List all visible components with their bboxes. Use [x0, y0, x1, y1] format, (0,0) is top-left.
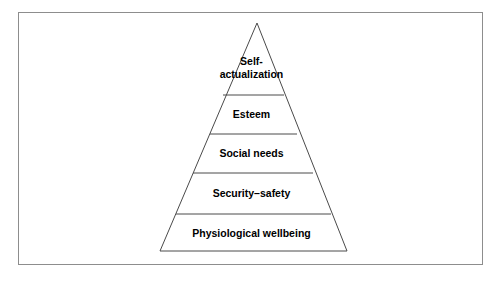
pyramid-svg-canvas: Self- actualization Esteem Social needs … [19, 13, 484, 266]
tier-label-security-safety: Security–safety [213, 187, 291, 199]
figure-frame: Self- actualization Esteem Social needs … [18, 12, 483, 265]
tier-label-social-needs: Social needs [219, 147, 283, 159]
tier-label-physiological-wellbeing: Physiological wellbeing [192, 227, 310, 239]
tier-label-self-actualization-line2: actualization [220, 68, 284, 80]
tier-label-esteem: Esteem [233, 108, 270, 120]
tier-label-self-actualization-line1: Self- [240, 55, 263, 67]
pyramid-diagram: Self- actualization Esteem Social needs … [19, 13, 484, 266]
